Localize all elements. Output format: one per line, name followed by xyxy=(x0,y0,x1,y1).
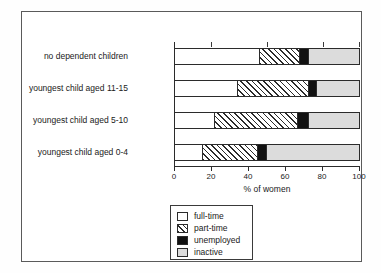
bar-segment-unemployed xyxy=(309,81,316,96)
legend-label-unemployed: unemployed xyxy=(194,236,240,245)
plot-area: 0 20 40 60 80 100 % of women xyxy=(174,42,360,167)
x-tick-100 xyxy=(359,167,360,171)
x-axis-line xyxy=(174,166,360,167)
table-row xyxy=(174,48,360,65)
legend-item-full-time: full-time xyxy=(177,210,252,222)
x-tick-label-40: 40 xyxy=(236,172,260,181)
chart-legend: full-time part-time unemployed inactive xyxy=(170,205,253,260)
bar-segment-full-time xyxy=(175,49,260,64)
y-tick-2 xyxy=(174,121,175,122)
bar-segment-inactive xyxy=(317,81,359,96)
x-tick-80 xyxy=(322,167,323,171)
legend-item-inactive: inactive xyxy=(177,246,252,258)
y-tick-1 xyxy=(174,89,175,90)
bar-segment-unemployed xyxy=(300,49,309,64)
bar-segment-inactive xyxy=(309,113,359,128)
table-row xyxy=(174,144,360,161)
category-label-2: youngest child aged 5-10 xyxy=(0,115,128,125)
bar-segment-full-time xyxy=(175,113,215,128)
category-label-3: youngest child aged 0-4 xyxy=(0,147,128,157)
legend-item-unemployed: unemployed xyxy=(177,234,252,246)
bar-segment-inactive xyxy=(309,49,359,64)
hatched-swatch-icon xyxy=(177,224,188,233)
y-tick-3 xyxy=(174,153,175,154)
x-tick-label-80: 80 xyxy=(310,172,334,181)
legend-label-full-time: full-time xyxy=(194,212,224,221)
grey-swatch-icon xyxy=(177,248,188,257)
bar-segment-part-time xyxy=(238,81,310,96)
table-row xyxy=(174,112,360,129)
bar-segment-full-time xyxy=(175,81,238,96)
x-tick-label-60: 60 xyxy=(273,172,297,181)
white-swatch-icon xyxy=(177,212,188,221)
bar-segment-inactive xyxy=(267,145,359,160)
y-tick-0 xyxy=(174,57,175,58)
bar-segment-part-time xyxy=(215,113,298,128)
legend-item-part-time: part-time xyxy=(177,222,252,234)
top-tick-80 xyxy=(323,42,324,47)
bar-segment-unemployed xyxy=(298,113,309,128)
x-axis-title: % of women xyxy=(174,184,360,194)
top-tick-40 xyxy=(267,42,268,47)
bar-segment-part-time xyxy=(260,49,300,64)
bar-segment-full-time xyxy=(175,145,203,160)
bar-segment-unemployed xyxy=(258,145,267,160)
x-tick-label-100: 100 xyxy=(347,172,371,181)
x-tick-40 xyxy=(248,167,249,171)
table-row xyxy=(174,80,360,97)
top-tick-100 xyxy=(359,42,360,47)
bar-segment-part-time xyxy=(203,145,258,160)
top-tick-20 xyxy=(211,42,212,47)
chart-figure: no dependent children youngest child age… xyxy=(0,0,381,273)
x-tick-label-20: 20 xyxy=(199,172,223,181)
x-tick-label-0: 0 xyxy=(162,172,186,181)
x-tick-0 xyxy=(174,167,175,171)
category-label-1: youngest child aged 11-15 xyxy=(0,83,128,93)
legend-label-inactive: inactive xyxy=(194,248,223,257)
x-tick-20 xyxy=(211,167,212,171)
x-tick-60 xyxy=(285,167,286,171)
category-label-0: no dependent children xyxy=(0,51,128,61)
legend-label-part-time: part-time xyxy=(194,224,228,233)
figure-border: no dependent children youngest child age… xyxy=(21,11,362,262)
black-swatch-icon xyxy=(177,236,188,245)
